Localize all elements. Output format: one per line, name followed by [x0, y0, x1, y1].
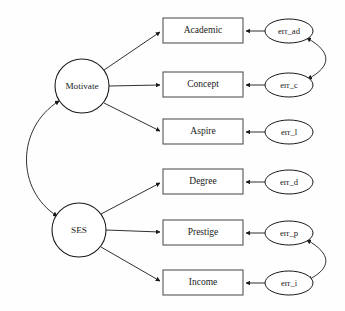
- latent-label-motivate: Motivate: [65, 81, 98, 91]
- path-motivate-concept: [109, 85, 160, 86]
- observed-label-concept: Concept: [187, 79, 219, 89]
- observed-label-degree: Degree: [189, 176, 216, 186]
- error-label-err-d: err_d: [280, 177, 299, 187]
- covariance-errad-errc: [307, 38, 326, 79]
- error-label-err-c: err_c: [280, 80, 298, 90]
- path-ses-prestige: [106, 230, 160, 232]
- sem-path-diagram: Motivate SES Academic Concept Aspire Deg…: [0, 0, 345, 311]
- path-ses-income: [101, 247, 160, 281]
- path-motivate-academic: [104, 32, 160, 70]
- latent-label-ses: SES: [71, 225, 87, 235]
- observed-label-prestige: Prestige: [188, 227, 219, 237]
- path-ses-degree: [101, 183, 160, 214]
- error-label-err-ad: err_ad: [278, 26, 301, 36]
- covariance-motivate-ses: [26, 101, 59, 216]
- observed-label-aspire: Aspire: [190, 126, 215, 136]
- error-label-err-i: err_i: [281, 278, 298, 288]
- error-label-err-p: err_p: [280, 228, 298, 238]
- error-label-err-l: err_l: [281, 127, 298, 137]
- covariance-errp-erri: [307, 240, 326, 280]
- observed-label-academic: Academic: [184, 25, 223, 35]
- sem-canvas: Motivate SES Academic Concept Aspire Deg…: [0, 0, 345, 311]
- path-motivate-aspire: [104, 103, 160, 131]
- observed-label-income: Income: [189, 277, 218, 287]
